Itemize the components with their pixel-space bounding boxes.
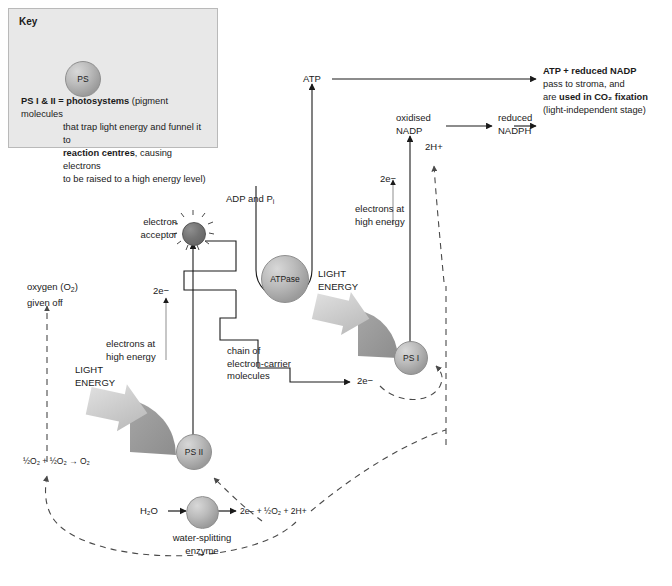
reduced-nadph-label: reduced NADPH [498, 112, 532, 137]
key-ps-sphere: PS [65, 61, 101, 97]
two-electrons-left-label: 2e− [153, 285, 169, 298]
water-splitting-enzyme-sphere [186, 496, 219, 529]
electron-acceptor-line2: acceptor [141, 229, 177, 240]
pi-subscript: i [273, 198, 275, 205]
adp-and-pi-label: ADP and Pi [226, 193, 274, 209]
two-electrons-right-label: 2e− [380, 173, 396, 186]
electrons-left-line1: electrons at [106, 338, 155, 349]
outcome-line2: pass to stroma, and [543, 78, 668, 91]
light-energy-right-line1: LIGHT [318, 268, 346, 279]
key-definition-text: PS I & II = photosystems (pigment molecu… [21, 95, 211, 186]
light-energy-label-right: LIGHT ENERGY [318, 268, 358, 293]
atpase-sphere: ATPase [261, 255, 309, 303]
atp-label: ATP [303, 73, 321, 86]
psi-sphere: PS I [394, 341, 428, 375]
water-splitting-line2: enzyme [185, 545, 218, 556]
oxidised-line2: NADP [396, 125, 422, 136]
key-def-photosystems: photosystems [66, 96, 129, 106]
electrons-right-line1: electrons at [355, 203, 404, 214]
psii-label: PS II [185, 447, 203, 457]
reduced-line1: reduced [498, 112, 532, 123]
adp-and-pi-text: ADP and P [226, 193, 273, 204]
outcome-line1: ATP + reduced NADP [543, 65, 668, 78]
electrons-high-energy-left-label: electrons at high energy [106, 338, 156, 363]
reduced-line2: NADPH [498, 125, 531, 136]
key-box: Key PS PS I & II = photosystems (pigment… [8, 8, 218, 148]
electron-acceptor-line1: electron [143, 216, 177, 227]
electron-transport-staircase [184, 241, 236, 290]
light-energy-right-line2: ENERGY [318, 281, 358, 292]
electrons-right-line2: high energy [355, 216, 405, 227]
oxygen-equation-label: ½O₂ + ½O₂ → O₂ [23, 455, 90, 468]
key-heading: Key [19, 16, 37, 27]
proton-long-dashed-diagonal [311, 430, 446, 511]
electron-carrier-chain-label: chain of electron-carrier molecules [227, 345, 291, 383]
water-splitting-line1: water-splitting [173, 532, 232, 543]
water-label: H₂O [140, 505, 158, 518]
light-energy-left-line2: ENERGY [75, 377, 115, 388]
oxygen-given-off-line1: oxygen (O [27, 281, 71, 292]
outcome-line3-bold: used in CO₂ fixation [559, 92, 648, 102]
chain-line3: molecules [227, 370, 270, 381]
outcome-line4: (light-independent stage) [543, 104, 668, 117]
outcome-line3-plain: are [543, 92, 559, 102]
oxidised-nadp-label: oxidised NADP [396, 112, 431, 137]
oxygen-given-off-label: oxygen (O2) given off [27, 281, 78, 309]
outcome-line3: are used in CO₂ fixation [543, 91, 668, 104]
water-splitting-enzyme-label: water-splitting enzyme [157, 532, 247, 557]
chain-line1: chain of [227, 345, 260, 356]
oxygen-given-off-paren: ) [75, 281, 78, 292]
psii-sphere: PS II [176, 434, 212, 470]
oxygen-given-off-line2: given off [27, 297, 63, 308]
psi-label: PS I [403, 353, 419, 363]
key-ps-sphere-label: PS [77, 74, 88, 84]
electron-acceptor-label: electron acceptor [135, 216, 177, 241]
chain-line2: electron-carrier [227, 358, 291, 369]
key-def-line2: that trap light energy and funnel it to [21, 121, 211, 147]
electrons-high-energy-right-label: electrons at high energy [355, 203, 405, 228]
outcome-text-block: ATP + reduced NADP pass to stroma, and a… [543, 65, 668, 117]
light-energy-label-left: LIGHT ENERGY [75, 364, 115, 389]
electron-acceptor-sphere [182, 222, 206, 246]
water-products-label: 2e− + ½O₂ + 2H+ [240, 505, 307, 518]
proton-dashed-arrow [434, 166, 444, 282]
light-energy-left-line1: LIGHT [75, 364, 103, 375]
two-protons-label: 2H+ [425, 141, 443, 154]
two-electrons-chain-label: 2e− [357, 375, 373, 388]
key-def-line3: reaction centres, causing electrons [21, 147, 211, 173]
atpase-label: ATPase [270, 274, 300, 284]
oxidised-line1: oxidised [396, 112, 431, 123]
key-def-reaction-centres: reaction centres [63, 148, 135, 158]
key-def-line4: to be raised to a high energy level) [21, 173, 211, 186]
photosynthesis-diagram: Key PS PS I & II = photosystems (pigment… [0, 0, 672, 586]
key-def-lead: PS I & II = [21, 96, 66, 106]
electrons-left-line2: high energy [106, 351, 156, 362]
